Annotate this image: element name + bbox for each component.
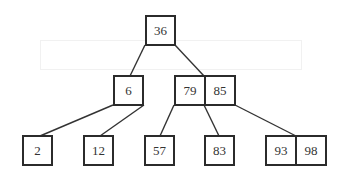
tree-diagram: 36 6 79 85 2 12 57 83 93 98: [0, 0, 347, 180]
tree-node-leaf5: 93 98: [265, 135, 327, 166]
tree-node-left: 6: [113, 75, 144, 106]
tree-node-leaf1: 2: [22, 135, 53, 166]
node-key: 2: [24, 137, 51, 164]
node-key: 93: [267, 137, 295, 164]
node-key: 57: [146, 137, 173, 164]
tree-node-leaf2: 12: [83, 135, 114, 166]
node-key: 79: [176, 77, 204, 104]
edge-right-leaf4: [204, 105, 219, 136]
node-key: 85: [204, 77, 234, 104]
node-key: 83: [206, 137, 233, 164]
edge-right-leaf5: [235, 105, 296, 136]
node-key: 6: [115, 77, 142, 104]
tree-node-root: 36: [145, 15, 176, 46]
node-key: 98: [295, 137, 325, 164]
edge-left-leaf2: [100, 105, 144, 136]
node-key: 12: [85, 137, 112, 164]
tree-node-leaf3: 57: [144, 135, 175, 166]
tree-node-leaf4: 83: [204, 135, 235, 166]
edge-right-leaf3: [160, 105, 174, 136]
tree-node-right: 79 85: [174, 75, 236, 106]
node-key: 36: [147, 17, 174, 44]
edge-root-left: [130, 45, 145, 76]
edge-root-right: [175, 45, 204, 76]
edge-left-leaf1: [40, 105, 113, 136]
